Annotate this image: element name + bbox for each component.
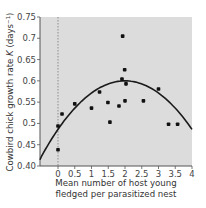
- data-point: [106, 101, 110, 105]
- data-point: [167, 122, 171, 126]
- y-tick-label: 0.7: [22, 33, 36, 43]
- plot-area: [40, 17, 192, 166]
- data-point: [123, 99, 127, 103]
- x-axis-label-line2: fledged per parasitized nest: [56, 189, 177, 199]
- y-tick-label: 0.6: [22, 76, 36, 86]
- data-point: [142, 99, 146, 103]
- y-tick-label: 0.45: [17, 140, 36, 150]
- data-point: [56, 148, 60, 152]
- y-tick-label: 0.75: [17, 12, 36, 22]
- data-point: [98, 90, 102, 94]
- data-point: [90, 106, 94, 110]
- y-axis-ticks: 0.400.450.50.550.60.650.70.75: [17, 12, 40, 171]
- data-point: [124, 82, 128, 86]
- y-axis-label: Cowbird chick growth rate K (days⁻¹): [5, 13, 15, 172]
- y-tick-label: 0.55: [17, 97, 36, 107]
- data-point: [60, 112, 64, 116]
- data-point: [120, 77, 124, 81]
- x-axis-label-line1: Mean number of host young: [55, 178, 176, 188]
- data-point: [121, 34, 125, 38]
- data-point: [123, 68, 127, 72]
- data-point: [108, 120, 112, 124]
- data-point: [56, 124, 60, 128]
- data-point: [176, 122, 180, 126]
- x-tick-label: 4: [189, 169, 194, 179]
- data-point: [157, 87, 161, 91]
- data-point: [73, 102, 77, 106]
- data-point: [117, 104, 121, 108]
- y-tick-label: 0.65: [17, 55, 36, 65]
- scatter-chart: 0.400.450.50.550.60.650.70.75 00.511.522…: [0, 0, 206, 208]
- y-tick-label: 0.5: [22, 118, 36, 128]
- y-tick-label: 0.40: [17, 161, 36, 171]
